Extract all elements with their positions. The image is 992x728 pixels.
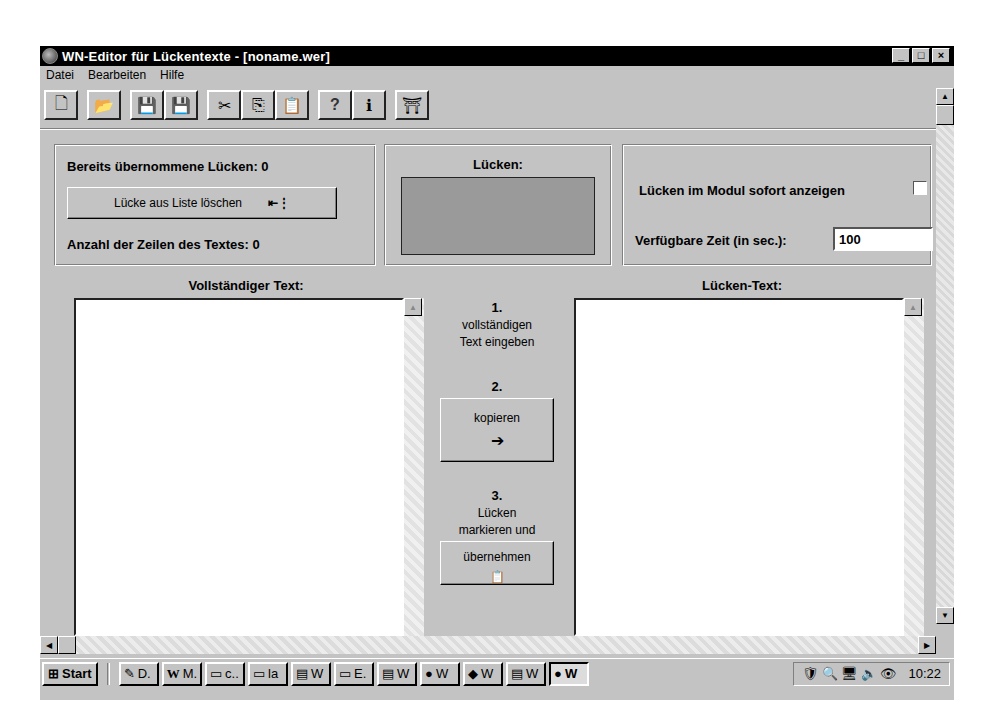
scroll-up-arrow-icon[interactable]: ▲	[404, 298, 422, 316]
help-icon[interactable]: ?	[318, 90, 352, 120]
taskbar-task[interactable]: ▭E.	[334, 662, 374, 686]
exit-door-icon[interactable]: ⛩	[395, 90, 429, 120]
step1-number: 1.	[428, 300, 566, 315]
drawing-app-icon: ✎	[124, 666, 135, 681]
step1-line1: vollständigen	[428, 318, 566, 332]
scroll-right-arrow-icon[interactable]: ▶	[918, 636, 936, 654]
folder-icon: ▭	[253, 666, 265, 681]
windows-logo-icon: ⊞	[48, 666, 59, 681]
taskbar: ⊞ Start ✎D. WM. ▭c.. ▭la ▤W ▭E. ▤W ●W ◆W…	[40, 658, 954, 688]
show-gaps-label: Lücken im Modul sofort anzeigen	[639, 183, 845, 198]
step1-line2: Text eingeben	[428, 335, 566, 349]
taskbar-task[interactable]: ▤W	[291, 662, 331, 686]
gap-text-area[interactable]	[574, 298, 904, 636]
folder-icon: ▭	[210, 666, 222, 681]
paste-icon[interactable]: 📋	[275, 90, 309, 120]
copy-icon[interactable]: ⎘	[241, 90, 275, 120]
document-icon: ▤	[511, 666, 523, 681]
menu-datei[interactable]: Datei	[46, 68, 74, 82]
line-count-label: Anzahl der Zeilen des Textes: 0	[67, 237, 260, 252]
cut-icon[interactable]: ✂	[207, 90, 241, 120]
taskbar-task[interactable]: ◆W	[463, 662, 503, 686]
workflow-steps: 1. vollständigen Text eingeben 2. kopier…	[428, 300, 566, 585]
taskbar-task[interactable]: ▭c..	[205, 662, 245, 686]
full-text-caption: Vollständiger Text:	[76, 278, 416, 293]
clock[interactable]: 10:22	[908, 666, 941, 681]
remove-from-list-icon: ⇤⋮	[268, 196, 290, 210]
globe-icon: ●	[425, 666, 433, 681]
options-panel: Lücken im Modul sofort anzeigen Verfügba…	[622, 144, 932, 266]
gaps-panel: Lücken:	[384, 144, 612, 266]
delete-gap-button-label: Lücke aus Liste löschen	[114, 196, 242, 210]
scroll-up-arrow-icon[interactable]: ▲	[904, 298, 922, 316]
globe-icon: ●	[554, 666, 562, 681]
search-icon[interactable]: 🔍	[822, 666, 838, 681]
word-icon: W	[167, 666, 180, 682]
accept-button-label: übernehmen	[463, 550, 530, 564]
main-horizontal-scrollbar[interactable]: ◀ ▶	[40, 636, 936, 654]
toolbar-divider	[40, 128, 936, 130]
taskbar-task[interactable]: ▤W	[506, 662, 546, 686]
step3-line1: Lücken	[428, 506, 566, 520]
gaps-caption: Lücken:	[385, 157, 611, 172]
pen-icon: ◆	[468, 666, 478, 681]
full-text-area[interactable]	[74, 298, 404, 636]
step3-number: 3.	[428, 488, 566, 503]
start-button[interactable]: ⊞ Start	[42, 662, 98, 686]
gap-info-panel: Bereits übernommene Lücken: 0 Lücke aus …	[54, 144, 376, 266]
accept-clipboard-icon: 📋	[490, 570, 505, 584]
save-as-icon[interactable]: 💾	[164, 90, 198, 120]
taskbar-task[interactable]: ●W	[420, 662, 460, 686]
network-icon[interactable]: 🖥	[841, 666, 858, 681]
folder-icon: ▭	[339, 666, 351, 681]
taskbar-task[interactable]: ▤W	[377, 662, 417, 686]
close-button[interactable]: ×	[932, 48, 950, 63]
accepted-gaps-label: Bereits übernommene Lücken: 0	[67, 159, 269, 174]
taskbar-task[interactable]: ▭la	[248, 662, 288, 686]
gaps-list[interactable]	[401, 177, 595, 255]
copy-button[interactable]: kopieren ➔	[440, 398, 554, 462]
horizontal-scroll-thumb[interactable]	[58, 636, 76, 654]
menu-bar: Datei Bearbeiten Hilfe	[40, 66, 954, 84]
eye-icon[interactable]: 👁	[880, 666, 897, 681]
show-gaps-checkbox[interactable]	[913, 181, 927, 195]
application-window: WN-Editor für Lückentexte - [noname.wer]…	[40, 46, 954, 700]
step2-number: 2.	[428, 379, 566, 394]
scroll-down-arrow-icon[interactable]: ▼	[936, 607, 954, 624]
copy-button-label: kopieren	[474, 411, 520, 425]
open-folder-icon[interactable]: 📂	[87, 90, 121, 120]
new-file-icon[interactable]: 🗋	[44, 90, 78, 120]
taskbar-separator	[107, 663, 110, 685]
info-icon[interactable]: ℹ	[352, 90, 386, 120]
shield-icon[interactable]: 🛡	[802, 666, 819, 681]
main-vertical-scrollbar[interactable]: ▲ ▼	[936, 88, 954, 624]
step3-line2: markieren und	[428, 523, 566, 537]
system-tray: 🛡 🔍 🖥 🔈 👁 10:22	[793, 662, 950, 686]
minimize-button[interactable]: _	[892, 48, 910, 63]
taskbar-task[interactable]: WM.	[162, 662, 202, 686]
arrow-right-icon: ➔	[491, 431, 504, 450]
delete-gap-button[interactable]: Lücke aus Liste löschen ⇤⋮	[67, 187, 337, 219]
available-time-label: Verfügbare Zeit (in sec.):	[635, 233, 787, 248]
window-title: WN-Editor für Lückentexte - [noname.wer]	[62, 49, 330, 64]
volume-icon[interactable]: 🔈	[861, 666, 877, 681]
accept-button[interactable]: übernehmen 📋	[440, 541, 554, 585]
scroll-thumb[interactable]	[936, 105, 954, 125]
gap-text-scrollbar[interactable]: ▲	[904, 298, 924, 636]
app-icon[interactable]	[42, 48, 58, 64]
scroll-left-arrow-icon[interactable]: ◀	[40, 636, 58, 654]
menu-hilfe[interactable]: Hilfe	[160, 68, 184, 82]
start-label: Start	[62, 666, 92, 681]
gap-text-caption: Lücken-Text:	[572, 278, 912, 293]
scroll-up-arrow-icon[interactable]: ▲	[936, 88, 954, 105]
menu-bearbeiten[interactable]: Bearbeiten	[88, 68, 146, 82]
save-icon[interactable]: 💾	[130, 90, 164, 120]
available-time-input[interactable]	[833, 227, 933, 251]
title-bar[interactable]: WN-Editor für Lückentexte - [noname.wer]…	[40, 46, 954, 66]
maximize-button[interactable]: □	[912, 48, 930, 63]
document-icon: ▤	[296, 666, 308, 681]
taskbar-task-active[interactable]: ●W	[549, 662, 589, 686]
full-text-scrollbar[interactable]: ▲	[404, 298, 424, 636]
document-icon: ▤	[382, 666, 394, 681]
taskbar-task[interactable]: ✎D.	[119, 662, 159, 686]
